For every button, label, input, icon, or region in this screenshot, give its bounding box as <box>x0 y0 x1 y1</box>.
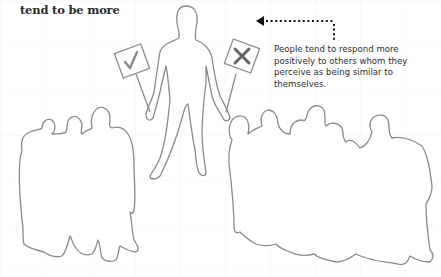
dotted-arrow <box>256 16 334 40</box>
right-group <box>229 106 433 265</box>
illustration <box>0 0 441 277</box>
left-group <box>19 107 138 261</box>
central-figure <box>146 6 230 179</box>
caption-text: People tend to respond more positively t… <box>274 44 439 90</box>
check-sign <box>114 44 150 112</box>
x-sign <box>224 39 259 112</box>
